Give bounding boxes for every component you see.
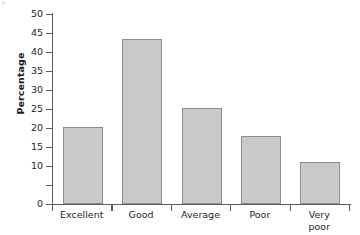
y-axis-tick-label: 30 — [3, 85, 43, 95]
y-axis-tick-label: 50 — [3, 9, 43, 19]
y-axis-tick-label: 10 — [3, 161, 43, 171]
x-axis-line — [52, 204, 351, 205]
y-axis-tick-label: 45 — [3, 28, 43, 38]
x-axis-tick-label: Good — [111, 209, 170, 221]
x-axis-tick-label-line: Average — [171, 209, 230, 221]
y-axis-tick-label: 0 — [3, 199, 43, 209]
x-axis-tick-label: Average — [171, 209, 230, 221]
x-axis-tick-label-line: Poor — [230, 209, 289, 221]
y-axis-tick-label: 20 — [3, 123, 43, 133]
x-axis-tick-label-line: Excellent — [52, 209, 111, 221]
bar-chart: Percentage 0101520253035404550 Excellent… — [0, 0, 360, 235]
y-axis-tick-label: 25 — [3, 104, 43, 114]
x-axis-tick-label-line: Good — [111, 209, 170, 221]
x-axis-tick-label: Verypoor — [290, 209, 349, 232]
bar-series — [53, 14, 350, 204]
bar — [182, 108, 222, 204]
x-axis-tick-label-line: poor — [290, 221, 349, 233]
x-axis-tick-label-line: Very — [290, 209, 349, 221]
y-axis-tick-label: 35 — [3, 66, 43, 76]
x-axis-tick-labels: ExcellentGoodAveragePoorVerypoor — [52, 209, 351, 235]
bar — [122, 39, 162, 204]
y-axis-tick-label: 40 — [3, 47, 43, 57]
bar — [63, 127, 103, 204]
x-axis-tick-label: Poor — [230, 209, 289, 221]
x-axis-tick-label: Excellent — [52, 209, 111, 221]
bar — [300, 162, 340, 204]
y-axis-tick-labels: 0101520253035404550 — [0, 0, 43, 235]
bar — [241, 136, 281, 204]
y-axis-tick-label: 15 — [3, 142, 43, 152]
